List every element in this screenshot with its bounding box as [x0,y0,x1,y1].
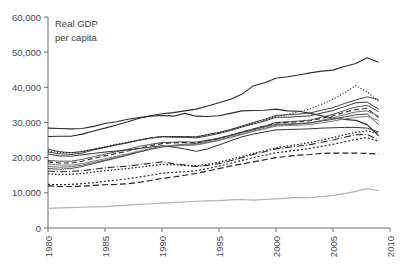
axis-lines [48,17,390,228]
chart-container: 010,00020,00030,00040,00050,00060,000 19… [0,0,406,267]
x-axis-tick-group: 1980198519901995200020052010 [43,228,396,257]
data-series-line [48,109,379,136]
series-group [48,58,379,209]
y-axis-tick-label: 50,000 [12,47,41,58]
gdp-per-capita-line-chart: 010,00020,00030,00040,00050,00060,000 19… [0,0,406,267]
chart-annotation-line1: Real GDP [55,18,98,29]
y-axis-tick-label: 40,000 [12,82,41,93]
x-axis-tick-label: 1995 [214,236,225,257]
x-axis-tick-label: 2005 [328,236,339,257]
data-series-line [48,189,379,209]
x-axis-tick-label: 1985 [100,236,111,257]
x-axis-tick-label: 1980 [43,236,54,257]
data-series-line [48,58,379,137]
y-axis-tick-label: 60,000 [12,12,41,23]
y-axis-tick-label: 10,000 [12,187,41,198]
data-series-line [48,138,379,185]
y-axis-tick-label: 20,000 [12,152,41,163]
x-axis-tick-label: 1990 [157,236,168,257]
y-axis-tick-group: 010,00020,00030,00040,00050,00060,000 [12,12,48,234]
x-axis-tick-label: 2010 [385,236,396,257]
y-axis-tick-label: 30,000 [12,117,41,128]
y-axis-tick-label: 0 [36,223,41,234]
chart-annotation-line2: per capita [55,32,97,43]
data-series-line [48,153,379,186]
x-axis-tick-label: 2000 [271,236,282,257]
